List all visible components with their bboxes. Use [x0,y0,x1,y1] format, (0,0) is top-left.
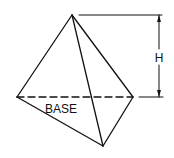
edge-right-front [103,97,133,146]
height-label: H [155,51,164,65]
arrowhead-down-icon [157,90,161,97]
edge-apex-left [17,15,72,97]
edge-apex-front [72,15,103,146]
arrowhead-up-icon [157,15,161,22]
base-label: BASE [45,102,77,116]
tetrahedron-diagram: H BASE [0,0,174,158]
